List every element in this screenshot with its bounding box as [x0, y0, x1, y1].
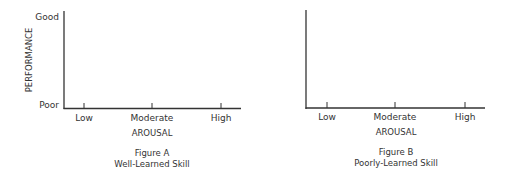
- figure-a-x-tick-label-moderate: Moderate: [131, 113, 174, 123]
- figure-a: Low Moderate High Poor Good PERFORMANCE …: [24, 11, 241, 169]
- figure-b-x-tick-label-moderate: Moderate: [374, 112, 417, 122]
- figure-b-subtitle: Poorly-Learned Skill: [354, 158, 438, 168]
- figure-a-y-axis-title: PERFORMANCE: [24, 28, 34, 93]
- figure-a-subtitle: Well-Learned Skill: [114, 159, 189, 169]
- figure-a-x-tick-label-high: High: [211, 113, 232, 123]
- figure-b-title: Figure B: [379, 147, 414, 157]
- figure-a-title: Figure A: [135, 148, 170, 158]
- figure-a-y-tick-label-good: Good: [35, 12, 59, 22]
- figure-b-x-tick-label-high: High: [455, 112, 476, 122]
- figure-a-x-tick-label-low: Low: [75, 113, 93, 123]
- figure-canvas: Low Moderate High Poor Good PERFORMANCE …: [0, 0, 508, 185]
- figure-a-x-axis-title: AROUSAL: [132, 128, 173, 138]
- figure-b-x-axis-title: AROUSAL: [376, 127, 417, 137]
- figure-b-x-tick-label-low: Low: [318, 112, 336, 122]
- figure-b: Low Moderate High AROUSAL Figure B Poorl…: [306, 10, 486, 168]
- figure-a-y-tick-label-poor: Poor: [39, 100, 59, 110]
